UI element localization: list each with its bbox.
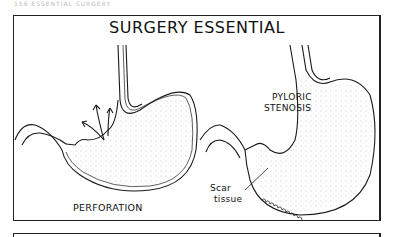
pyloric-label-line1: PYLORIC [272, 92, 312, 102]
perforated-stomach-drawing [15, 45, 197, 191]
scar-tissue-label-line2: tissue [214, 194, 242, 204]
stomach-illustrations [0, 0, 394, 237]
pyloric-label-line2: STENOSIS [264, 103, 311, 113]
perforation-label: PERFORATION [73, 203, 143, 213]
scar-tissue-label-line1: Scar [210, 183, 231, 193]
